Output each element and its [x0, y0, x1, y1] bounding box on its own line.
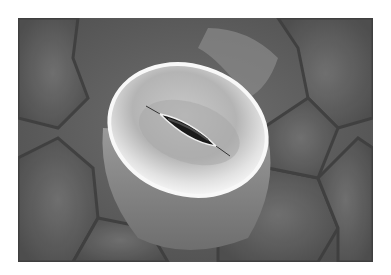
stoma-illustration — [18, 18, 373, 262]
sem-stoma-image — [18, 18, 373, 262]
